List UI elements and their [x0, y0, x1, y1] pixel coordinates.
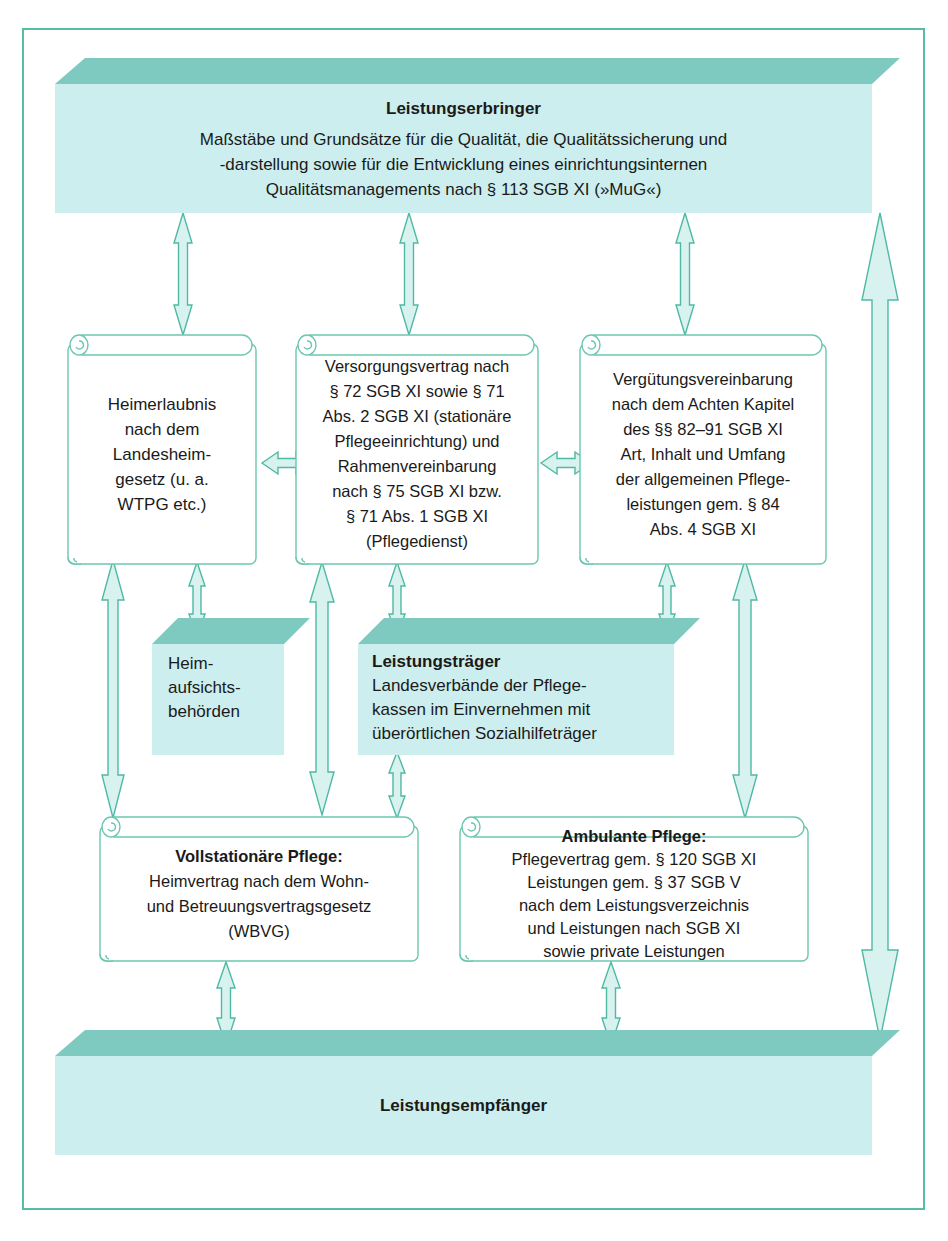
- banner-line: Heim-: [168, 652, 213, 676]
- box-line: nach dem Achten Kapitel: [612, 392, 795, 417]
- box-line: Leistungen gem. § 37 SGB V: [527, 871, 741, 894]
- banner-heimaufsichtsbehoerden: Heim- aufsichts- behörden: [152, 618, 310, 755]
- box-line: Pflegevertrag gem. § 120 SGB XI: [512, 848, 757, 871]
- box-line: Heimvertrag nach dem Wohn-: [149, 869, 369, 894]
- box-line: (WBVG): [228, 919, 289, 944]
- box-line: Rahmenvereinbarung: [338, 454, 497, 479]
- box-line: (Pflegedienst): [366, 529, 468, 554]
- box-line: Versorgungsvertrag nach: [325, 354, 509, 379]
- banner-line: Qualitätsmanagements nach § 113 SGB XI (…: [266, 177, 662, 202]
- banner-title-leistungsempfaenger: Leistungsempfänger: [380, 1093, 547, 1118]
- box-line: leistungen gem. § 84: [626, 492, 779, 517]
- box-line: des §§ 82–91 SGB XI: [623, 417, 783, 442]
- box-verguetungsvereinbarung: Vergütungsvereinbarung nach dem Achten K…: [580, 344, 826, 564]
- banner-title-leistungserbringer: Leistungserbringer: [386, 96, 541, 121]
- box-line: Abs. 2 SGB XI (stationäre: [323, 404, 512, 429]
- box-line: gesetz (u. a.: [115, 467, 209, 492]
- box-versorgungsvertrag: Versorgungsvertrag nach § 72 SGB XI sowi…: [296, 344, 538, 564]
- box-heimerlaubnis: Heimerlaubnis nach dem Landesheim- geset…: [68, 344, 256, 564]
- box-line: nach § 75 SGB XI bzw.: [332, 479, 502, 504]
- box-line: nach dem Leistungsverzeichnis: [519, 894, 749, 917]
- box-line: § 71 Abs. 1 SGB XI: [346, 504, 488, 529]
- box-title-ambulante: Ambulante Pflege:: [562, 825, 707, 848]
- box-line: und Leistungen nach SGB XI: [528, 917, 741, 940]
- banner-line: Landesverbände der Pflege-: [372, 674, 587, 698]
- banner-line: behörden: [168, 700, 240, 724]
- banner-leistungsempfaenger: Leistungsempfänger: [55, 1030, 900, 1155]
- box-line: Vergütungsvereinbarung: [613, 367, 793, 392]
- box-line: nach dem: [125, 417, 200, 442]
- banner-line: Maßstäbe und Grundsätze für die Qualität…: [200, 127, 727, 152]
- box-line: Pflegeeinrichtung) und: [334, 429, 499, 454]
- banner-line: -darstellung sowie für die Entwicklung e…: [220, 152, 708, 177]
- box-line: der allgemeinen Pflege-: [616, 467, 790, 492]
- banner-leistungserbringer: Leistungserbringer Maßstäbe und Grundsät…: [55, 58, 900, 213]
- box-line: Art, Inhalt und Umfang: [620, 442, 785, 467]
- box-line: WTPG etc.): [118, 492, 207, 517]
- box-line: Landesheim-: [113, 442, 211, 467]
- box-vollstationaere-pflege: Vollstationäre Pflege: Heimvertrag nach …: [100, 826, 418, 961]
- banner-line: aufsichts-: [168, 676, 241, 700]
- box-ambulante-pflege: Ambulante Pflege: Pflegevertrag gem. § 1…: [460, 826, 808, 961]
- box-line: Abs. 4 SGB XI: [650, 517, 756, 542]
- banner-title-leistungstraeger: Leistungsträger: [372, 650, 500, 674]
- box-line: § 72 SGB XI sowie § 71: [329, 379, 504, 404]
- banner-line: überörtlichen Sozialhilfeträger: [372, 722, 597, 746]
- box-line: sowie private Leistungen: [543, 940, 725, 963]
- box-line: und Betreuungsvertragsgesetz: [147, 894, 372, 919]
- banner-leistungstraeger: Leistungsträger Landesverbände der Pfleg…: [358, 618, 700, 755]
- banner-line: kassen im Einvernehmen mit: [372, 698, 590, 722]
- box-line: Heimerlaubnis: [108, 392, 217, 417]
- box-title-vollstationaer: Vollstationäre Pflege:: [175, 844, 342, 869]
